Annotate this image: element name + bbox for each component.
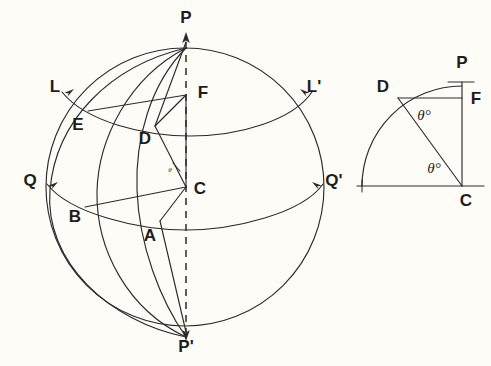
label-center: C [194, 179, 206, 198]
line-c-to-b [85, 187, 186, 207]
parallel-circle-arc [62, 92, 312, 136]
label-point-a: A [144, 226, 156, 245]
label-point-e: E [72, 115, 83, 134]
inset-theta-at-d: θ° [417, 107, 430, 123]
geometry-figure: θ P P' Q Q' L L' C F D E A B [0, 0, 491, 366]
line-e-to-f [88, 95, 186, 111]
inset-label-center: C [460, 191, 472, 210]
label-parallel-right: L' [307, 77, 321, 96]
equator-front-arc [47, 184, 323, 230]
label-equator-left: Q [23, 171, 36, 190]
label-south-pole: P' [178, 337, 193, 356]
line-c-to-a [160, 187, 186, 221]
label-north-pole: P [180, 8, 191, 27]
label-parallel-left: L [50, 77, 60, 96]
meridian-through-d [137, 48, 186, 337]
inset-group: P D F C θ° θ° [357, 53, 484, 210]
label-point-d: D [139, 129, 151, 148]
inset-label-point-d: D [377, 77, 389, 96]
meridian-through-e [97, 48, 186, 337]
inset-theta-at-c: θ° [427, 160, 440, 176]
label-point-b: B [69, 207, 81, 226]
angle-marker-tick-c [173, 163, 180, 171]
diagram-canvas: θ P P' Q Q' L L' C F D E A B [0, 0, 491, 366]
label-equator-right: Q' [325, 171, 342, 190]
label-foot-f: F [198, 83, 208, 102]
inset-quarter-arc [362, 86, 462, 186]
sphere-theta-marker: θ [168, 166, 172, 174]
sphere-group: θ P P' Q Q' L L' C F D E A B [23, 8, 342, 356]
inset-label-foot: F [471, 89, 481, 108]
pole-axis-arrowhead-north [182, 32, 190, 43]
inset-label-pole: P [456, 53, 467, 72]
